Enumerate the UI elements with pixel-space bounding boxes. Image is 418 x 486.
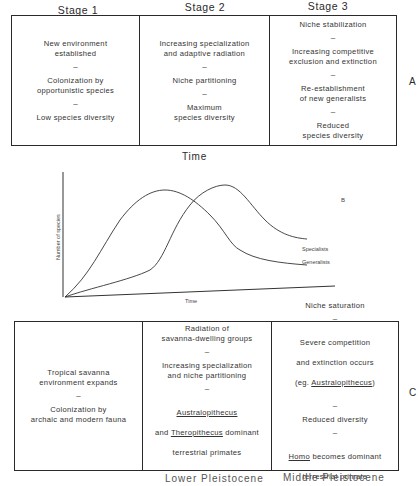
text-dominant: dominant: [225, 428, 259, 437]
period-1-column: Tropical savanna environment expands – C…: [15, 322, 142, 470]
text-extinction-occurs: and extinction occurs: [295, 358, 375, 368]
stage-3-item: Reduced species diversity: [303, 121, 364, 141]
text-paren: ): [372, 378, 375, 387]
period-3-column: Niche saturation – Severe competition an…: [271, 322, 398, 470]
text-becomes-dominant: becomes dominant: [312, 452, 381, 461]
separator: –: [333, 429, 338, 437]
taxon-theropithecus: Theropithecus: [171, 428, 223, 437]
stage-1-item: Colonization by opportunistic species: [37, 76, 114, 96]
text-eg: (eg.: [295, 378, 309, 387]
text-and: and: [155, 428, 169, 437]
separator: –: [202, 90, 207, 98]
panel-c-marker: C: [409, 387, 416, 398]
text-terrestrial-primates: terrestrial primates: [155, 448, 259, 458]
period-2-item: Radiation of savanna-dwelling groups: [162, 324, 253, 344]
separator: –: [331, 71, 336, 79]
panel-b-marker: B: [341, 197, 345, 203]
stage-3-column: Niche stabilization – Increasing competi…: [269, 16, 396, 145]
stage-2-item: Niche partitioning: [172, 76, 236, 86]
stage-2-column: Increasing specialization and adaptive r…: [139, 16, 269, 145]
separator: –: [205, 385, 210, 393]
x-axis: [65, 286, 335, 297]
separator: –: [331, 34, 336, 42]
separator: –: [331, 108, 336, 116]
period-3-competition: Severe competition and extinction occurs…: [295, 328, 375, 398]
stage-1-item: New environment established: [44, 39, 108, 59]
generalists-label: Generalists: [302, 259, 330, 265]
separator: –: [76, 392, 81, 400]
period-2-item: Increasing specialization and niche part…: [162, 361, 252, 381]
stage-3-item: Niche stabilization: [300, 20, 367, 30]
stage-1-item: Low species diversity: [36, 113, 114, 123]
stage-2-item: Maximum species diversity: [174, 103, 235, 123]
chart-x-label: Time: [185, 298, 197, 304]
generalists-curve: [65, 190, 307, 297]
panel-a-table: New environment established – Colonizati…: [11, 15, 397, 146]
separator: –: [333, 402, 338, 410]
stage-1-column: New environment established – Colonizati…: [12, 16, 139, 145]
period-2-column: Radiation of savanna-dwelling groups – I…: [142, 322, 271, 470]
taxon-australopithecus: Australopithecus: [311, 378, 372, 387]
period-3-item: Reduced diversity: [302, 415, 367, 425]
period-label-middle: Middle Pleistocene: [283, 472, 385, 483]
specialists-label: Specialists: [302, 246, 329, 252]
chart-y-label: Number of species: [55, 214, 61, 260]
separator: –: [333, 315, 338, 323]
separator: –: [205, 348, 210, 356]
period-2-primates: Australopithecus and Theropithecus domin…: [155, 398, 259, 468]
stage-2-item: Increasing specialization and adaptive r…: [159, 39, 249, 59]
period-3-item: Niche saturation: [305, 301, 365, 311]
panel-c-table: Tropical savanna environment expands – C…: [14, 321, 399, 471]
text-severe-competition: Severe competition: [295, 338, 375, 348]
specialists-curve: [65, 185, 307, 297]
stage-3-header: Stage 3: [268, 0, 388, 12]
stage-2-header: Stage 2: [145, 1, 265, 13]
stage-3-item: Increasing competitive exclusion and ext…: [289, 47, 377, 67]
period-label-lower: Lower Pleistocene: [165, 473, 264, 484]
taxon-homo: Homo: [289, 452, 310, 461]
stage-3-item: Re-establishment of new generalists: [300, 84, 367, 104]
separator: –: [73, 63, 78, 71]
period-1-item: Tropical savanna environment expands: [39, 368, 117, 388]
separator: –: [73, 100, 78, 108]
separator: –: [202, 63, 207, 71]
period-1-item: Colonization by archaic and modern fauna: [31, 405, 126, 425]
taxon-australopithecus: Australopithecus: [177, 408, 238, 417]
panel-a-marker: A: [409, 76, 416, 87]
species-chart: Specialists Generalists B Time Number of…: [0, 160, 418, 310]
